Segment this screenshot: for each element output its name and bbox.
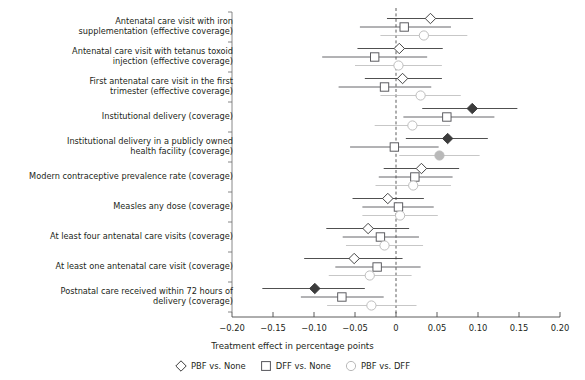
circle-marker (416, 91, 425, 100)
diamond-marker (416, 163, 426, 173)
square-marker (373, 263, 381, 271)
diamond-marker (467, 103, 477, 113)
x-tick-label: −0.20 (219, 323, 245, 333)
x-tick-label: −0.15 (260, 323, 286, 333)
square-marker (338, 293, 346, 301)
series-diamond (262, 13, 517, 293)
circle-marker (367, 301, 376, 310)
diamond-marker (363, 223, 373, 233)
category-label: First antenatal care visit in the first … (89, 76, 233, 97)
circle-marker (396, 211, 405, 220)
circle-marker (345, 360, 357, 372)
circle-marker (419, 31, 428, 40)
legend-label: PBF vs. None (191, 361, 246, 371)
square-marker (260, 360, 272, 372)
legend-label: DFF vs. None (276, 361, 331, 371)
diamond-marker (175, 360, 187, 372)
category-label: Postnatal care received within 72 hours … (61, 286, 233, 307)
category-label: Institutional delivery in a publicly own… (67, 136, 233, 157)
diamond-marker (425, 13, 435, 23)
square-marker (394, 203, 402, 211)
circle-marker (409, 181, 418, 190)
legend-item[interactable]: PBF vs. None (175, 360, 246, 372)
category-label: At least one antenatal care visit (cover… (56, 261, 234, 271)
square-marker (443, 113, 451, 121)
x-tick-label: 0.15 (510, 323, 529, 333)
category-label: Measles any dose (coverage) (113, 201, 233, 211)
x-tick-label: 0.05 (428, 323, 447, 333)
category-label: Modern contraceptive prevalence rate (co… (29, 171, 233, 181)
diamond-marker (310, 283, 320, 293)
category-label: Antenatal care visit with tetanus toxoid… (72, 46, 233, 67)
x-tick-label: 0.20 (551, 323, 570, 333)
diamond-marker (383, 193, 393, 203)
circle-marker (380, 241, 389, 250)
series-circle (327, 31, 480, 310)
square-marker (411, 173, 419, 181)
diamond-marker (442, 133, 452, 143)
x-axis-title: Treatment effect in percentage points (0, 341, 585, 351)
x-tick-label: 0.10 (469, 323, 488, 333)
circle-marker (365, 271, 374, 280)
diamond-marker (397, 73, 407, 83)
legend-item[interactable]: DFF vs. None (260, 360, 331, 372)
circle-marker (408, 121, 417, 130)
square-marker (400, 23, 408, 31)
chart-legend: PBF vs. NoneDFF vs. NonePBF vs. DFF (0, 360, 585, 372)
circle-marker (394, 61, 403, 70)
legend-label: PBF vs. DFF (361, 361, 410, 371)
x-tick-label: −0.05 (342, 323, 368, 333)
x-tick-label: −0.10 (301, 323, 327, 333)
square-marker (390, 143, 398, 151)
category-label: At least four antenatal care visits (cov… (50, 231, 233, 241)
square-marker (370, 53, 378, 61)
category-label: Antenatal care visit with iron supplemen… (79, 16, 233, 37)
x-tick-label: 0 (393, 323, 398, 333)
diamond-marker (349, 253, 359, 263)
category-label: Institutional delivery (coverage) (102, 111, 233, 121)
legend-item[interactable]: PBF vs. DFF (345, 360, 410, 372)
square-marker (380, 83, 388, 91)
square-marker (376, 233, 384, 241)
circle-marker (435, 151, 444, 160)
